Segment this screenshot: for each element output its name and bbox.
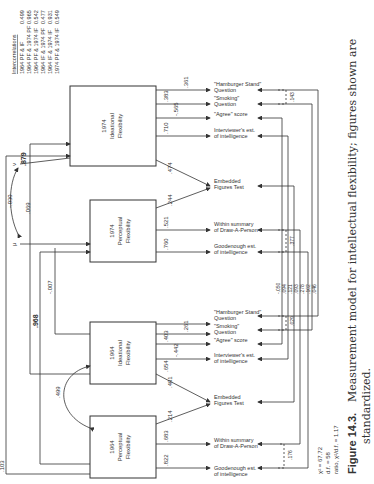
svg-text:Flexibility: Flexibility — [125, 341, 131, 366]
svg-text:standardized.: standardized. — [360, 368, 373, 444]
svg-text:Question: Question — [214, 87, 236, 93]
path-mu-nu: -.030 — [7, 194, 13, 208]
factor-1964-ideational: 1964 Ideational Flexibility — [90, 322, 156, 384]
svg-text:1964 IF & 1974 PF: 1964 IF & 1974 PF — [40, 27, 46, 74]
svg-text:.474: .474 — [167, 162, 173, 174]
error-correlation-values: .176 .029 .377 .143 -.050 .094 .121 .093… — [275, 92, 317, 460]
svg-text:.822: .822 — [163, 454, 169, 466]
svg-text:.377: .377 — [289, 236, 295, 246]
svg-text:.760: .760 — [163, 238, 169, 250]
svg-text:Perceptual: Perceptual — [117, 217, 123, 246]
svg-text:d.f. = 58: d.f. = 58 — [325, 451, 331, 474]
nu-label: ν — [11, 163, 17, 166]
factor-1974-ideational: 1974 Ideational Flexibility — [70, 86, 156, 166]
svg-text:Figures Test: Figures Test — [214, 184, 244, 190]
svg-text:1974 PF & 1974 IF: 1974 PF & 1974 IF — [54, 27, 60, 74]
svg-text:1974: 1974 — [101, 119, 107, 133]
svg-text:1964: 1964 — [109, 346, 115, 360]
svg-text:Perceptual: Perceptual — [117, 433, 123, 462]
svg-text:of intelligence: of intelligence — [214, 358, 248, 364]
svg-text:1964 PF & 1974 IF: 1964 PF & 1974 IF — [33, 27, 39, 74]
svg-text:of Draw-A-Person: of Draw-A-Person — [214, 227, 258, 233]
svg-text:0.499: 0.499 — [19, 10, 25, 24]
figure-14-3: 1964 Perceptual Flexibility 1964 Ideatio… — [0, 0, 374, 484]
svg-text:0.477: 0.477 — [40, 10, 46, 24]
path-pf64-pf74: .968 — [32, 314, 39, 328]
svg-text:1974: 1974 — [109, 224, 115, 238]
mu-label: μ — [11, 242, 17, 246]
svg-text:1964 PF & IF: 1964 PF & IF — [19, 41, 25, 74]
error-correlation-lines — [258, 90, 318, 468]
factor-1974-perceptual: 1974 Perceptual Flexibility — [90, 200, 156, 262]
loading-values: .822 .683 .214 .401 .654 -.442 .403 .261… — [163, 76, 189, 466]
svg-text:-.442: -.442 — [173, 343, 179, 357]
svg-text:.143: .143 — [289, 92, 295, 102]
svg-text:Ideational: Ideational — [117, 340, 123, 366]
svg-text:.261: .261 — [183, 320, 189, 332]
svg-text:of intelligence: of intelligence — [214, 249, 248, 255]
svg-text:.521: .521 — [163, 216, 169, 228]
svg-text:.046: .046 — [311, 284, 317, 294]
figure-caption: Figure 14.3. Measurement model for intel… — [346, 39, 373, 474]
svg-text:-.565: -.565 — [173, 102, 179, 116]
svg-text:Flexibility: Flexibility — [125, 219, 131, 244]
svg-text:.361: .361 — [183, 76, 189, 88]
svg-text:.654: .654 — [163, 360, 169, 372]
loading-arrows — [156, 90, 210, 468]
svg-text:0.931: 0.931 — [47, 10, 53, 24]
svg-text:1964 PF & 1974 PF: 1964 PF & 1974 PF — [26, 25, 32, 74]
svg-text:of Draw-A-Person: of Draw-A-Person — [214, 443, 258, 449]
svg-text:1964 IF & 1974 IF: 1964 IF & 1974 IF — [47, 29, 53, 74]
path-if64-pf74: -.007 — [47, 280, 53, 294]
path-pf64-if74: .103 — [0, 460, 5, 472]
svg-text:0.549: 0.549 — [54, 10, 60, 24]
svg-text:Flexibility: Flexibility — [117, 114, 123, 139]
svg-text:Figures Test: Figures Test — [214, 400, 244, 406]
svg-text:of intelligence: of intelligence — [214, 471, 248, 477]
svg-text:.403: .403 — [163, 330, 169, 342]
svg-text:1964: 1964 — [109, 440, 115, 454]
svg-text:.401: .401 — [167, 376, 173, 388]
path-pf64-if64: .499 — [55, 386, 61, 398]
svg-text:Question: Question — [214, 101, 236, 107]
svg-text:.383: .383 — [163, 90, 169, 102]
svg-text:.710: .710 — [163, 122, 169, 134]
svg-text:of intelligence: of intelligence — [214, 133, 248, 139]
structural-paths — [6, 144, 90, 474]
svg-text:.214: .214 — [167, 410, 173, 422]
svg-text:Ideational: Ideational — [109, 113, 115, 139]
svg-text:.176: .176 — [287, 450, 293, 460]
svg-text:Measurement model for intellec: Measurement model for intellectual flexi… — [346, 39, 359, 402]
factor-1964-perceptual: 1964 Perceptual Flexibility — [90, 416, 156, 478]
svg-text:0.965: 0.965 — [26, 10, 32, 24]
intercorrelations-table: Intercorrelations 1964 PF & IF0.499 1964… — [11, 10, 60, 74]
svg-text:Figure 14.3.: Figure 14.3. — [346, 413, 358, 474]
indicator-labels: Goodenough est. of intelligence Within s… — [214, 81, 261, 477]
path-nu-if74: .879 — [20, 152, 27, 166]
svg-text:.029: .029 — [289, 316, 295, 326]
svg-text:"Agree" score: "Agree" score — [214, 337, 248, 343]
svg-text:.683: .683 — [163, 430, 169, 442]
path-mu-pf74: .069 — [25, 202, 31, 214]
svg-text:.244: .244 — [167, 194, 173, 206]
svg-text:0.542: 0.542 — [33, 10, 39, 24]
fit-statistics: χ² = 67.72 d.f. = 58 ratio, χ²/d.f. = 1.… — [317, 425, 339, 474]
svg-text:Question: Question — [214, 329, 236, 335]
svg-text:Intercorrelations: Intercorrelations — [11, 34, 17, 74]
svg-text:χ² = 67.72: χ² = 67.72 — [317, 446, 323, 474]
svg-text:Flexibility: Flexibility — [125, 435, 131, 460]
svg-text:"Agree" score: "Agree" score — [214, 111, 248, 117]
svg-text:ratio, χ²/d.f. = 1.17: ratio, χ²/d.f. = 1.17 — [333, 425, 339, 474]
svg-text:Question: Question — [214, 315, 236, 321]
